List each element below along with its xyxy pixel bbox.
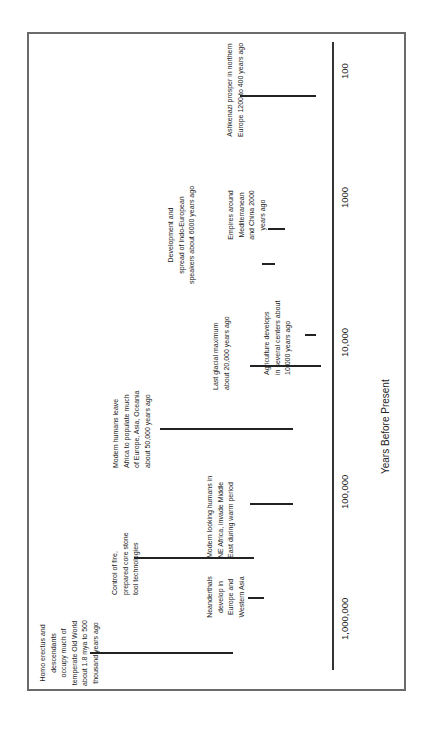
event-fire: Control of fire, prepared core stone too… [110, 495, 142, 595]
event-neanderthals: Neanderthals develop in Europe and Weste… [205, 564, 247, 630]
event-line-modern-looking [250, 503, 293, 505]
event-ashkenazi: Ashkenazi prosper in northern Europe 120… [225, 30, 246, 150]
event-modern-looking: Modern looking humans in NE Africa, inva… [205, 438, 237, 558]
event-line-modern-leave [160, 428, 293, 430]
event-line-agriculture [305, 334, 316, 336]
event-glacial: Last glacial maximum about 20,000 years … [211, 280, 232, 390]
tick-label-100000: 100,000 [339, 475, 350, 509]
time-axis-line [332, 42, 334, 670]
event-homo-erectus: Homo erectus and descendants occupy much… [38, 594, 101, 712]
event-empires: Empires around Mediterranean and China 2… [226, 180, 268, 250]
tick-label-1000: 1000 [339, 187, 350, 208]
event-line-homo-erectus [90, 652, 233, 654]
event-modern-leave: Modern humans leave Africa to populate m… [111, 348, 153, 468]
event-agriculture: Agriculture develops in several centers … [262, 255, 294, 375]
tick-label-10000: 10,000 [339, 328, 350, 357]
event-line-ashkenazi [240, 95, 316, 97]
tick-label-100: 100 [339, 63, 350, 79]
tick-label-1000000: 1,000,000 [339, 598, 350, 640]
event-indo-european: Development and spread of Indo-European … [166, 170, 198, 300]
event-line-empires [268, 228, 285, 230]
axis-title: Years Before Present [380, 379, 391, 474]
event-line-neanderthals [248, 597, 264, 599]
